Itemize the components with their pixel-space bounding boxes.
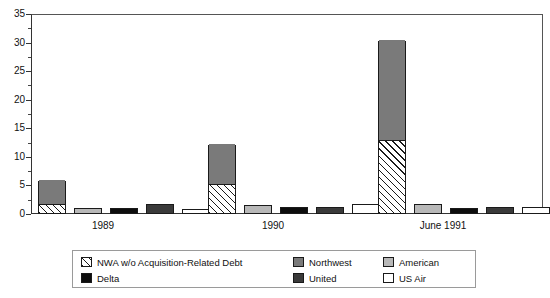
- y-tick-label: 0: [19, 209, 25, 219]
- bars-layer: [32, 14, 542, 214]
- bar-northwest: [378, 41, 406, 214]
- x-axis-label-june-1991: June 1991: [358, 220, 528, 231]
- legend-swatch-icon: [81, 273, 92, 283]
- legend-swatch-icon: [383, 257, 394, 267]
- bar-us-air: [182, 209, 210, 214]
- bar-american: [74, 208, 102, 214]
- bar-northwest: [208, 145, 236, 214]
- y-tick-label: 5: [19, 180, 25, 190]
- y-tick-major: [26, 128, 31, 129]
- legend-column-1: NWA w/o Acquisition-Related DebtDelta: [81, 255, 242, 287]
- bar-us-air: [522, 207, 550, 214]
- x-axis-label-1989: 1989: [18, 220, 188, 231]
- bar-segment-northwest: [209, 144, 235, 185]
- y-tick-label: 25: [14, 66, 25, 76]
- y-tick-minor: [28, 85, 31, 86]
- bar-segment-nwa-without-acquisition-debt: [39, 204, 65, 213]
- y-tick-minor: [28, 143, 31, 144]
- x-axis-label-1990: 1990: [188, 220, 358, 231]
- legend-swatch-icon: [293, 273, 304, 283]
- bar-delta: [110, 208, 138, 214]
- y-tick-minor: [28, 200, 31, 201]
- y-tick-minor: [28, 28, 31, 29]
- legend-label: Delta: [97, 273, 119, 284]
- y-tick-label: 10: [14, 152, 25, 162]
- bar-delta: [450, 208, 478, 214]
- bar-united: [486, 207, 514, 214]
- y-tick-minor: [28, 114, 31, 115]
- bar-united: [146, 204, 174, 214]
- bar-segment-northwest: [379, 40, 405, 140]
- y-tick-label: 35: [14, 9, 25, 19]
- y-tick-minor: [28, 57, 31, 58]
- y-tick-label: 15: [14, 123, 25, 133]
- y-tick-label: 30: [14, 38, 25, 48]
- legend-item: US Air: [383, 271, 439, 285]
- y-tick-major: [26, 43, 31, 44]
- legend-column-3: AmericanUS Air: [383, 255, 439, 287]
- y-tick-major: [26, 157, 31, 158]
- y-tick-major: [26, 14, 31, 15]
- legend-column-2: NorthwestUnited: [293, 255, 352, 287]
- y-tick-major: [26, 214, 31, 215]
- y-tick-major: [26, 185, 31, 186]
- y-tick-major: [26, 100, 31, 101]
- bar-delta: [280, 207, 308, 214]
- y-tick-label: 20: [14, 95, 25, 105]
- legend-label: US Air: [399, 273, 426, 284]
- y-tick-major: [26, 71, 31, 72]
- legend-swatch-icon: [293, 257, 304, 267]
- chart-legend: NWA w/o Acquisition-Related DebtDelta No…: [72, 250, 476, 288]
- y-tick-minor: [28, 171, 31, 172]
- bar-us-air: [352, 204, 380, 214]
- bar-northwest: [38, 181, 66, 214]
- legend-item: United: [293, 271, 352, 285]
- bar-segment-northwest: [39, 180, 65, 204]
- legend-item: American: [383, 255, 439, 269]
- bar-united: [316, 207, 344, 214]
- legend-label: Northwest: [309, 257, 352, 268]
- y-axis: 05101520253035: [0, 0, 31, 214]
- legend-item: Delta: [81, 271, 242, 285]
- legend-item: NWA w/o Acquisition-Related Debt: [81, 255, 242, 269]
- bar-american: [414, 204, 442, 214]
- bar-segment-nwa-without-acquisition-debt: [379, 140, 405, 213]
- bar-american: [244, 205, 272, 214]
- bar-segment-nwa-without-acquisition-debt: [209, 184, 235, 213]
- legend-swatch-icon: [81, 257, 92, 267]
- legend-label: American: [399, 257, 439, 268]
- legend-label: United: [309, 273, 336, 284]
- legend-label: NWA w/o Acquisition-Related Debt: [97, 257, 242, 268]
- legend-item: Northwest: [293, 255, 352, 269]
- legend-swatch-icon: [383, 273, 394, 283]
